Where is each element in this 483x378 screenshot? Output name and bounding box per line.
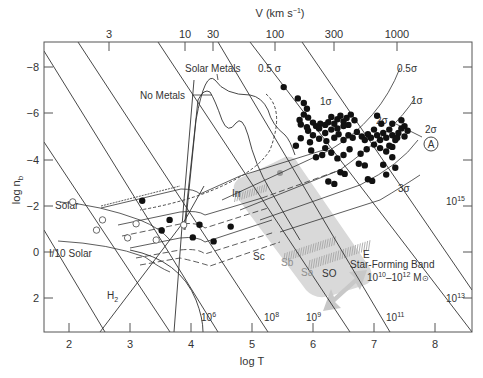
- filled-data-point: [350, 135, 356, 141]
- filled-data-point: [305, 128, 311, 134]
- filled-data-point: [228, 223, 234, 229]
- filled-data-point: [307, 139, 313, 145]
- filled-data-point: [328, 126, 334, 132]
- filled-data-point: [340, 123, 346, 129]
- label-half-sigma-left: 0.5 σ: [258, 63, 282, 74]
- filled-data-point: [334, 155, 340, 161]
- top-tick-10: 10: [179, 28, 191, 40]
- label-sfb-mass-range: 1010–1012 M⊙: [367, 271, 429, 283]
- filled-data-point: [322, 130, 328, 136]
- filled-data-point: [386, 126, 392, 132]
- filled-data-point: [392, 165, 398, 171]
- filled-data-point: [380, 162, 386, 168]
- filled-data-point: [389, 154, 395, 160]
- filled-data-point: [369, 178, 375, 184]
- filled-data-point: [334, 125, 340, 131]
- open-data-point: [181, 222, 187, 228]
- mass-label-1e11: 1011: [386, 311, 404, 323]
- filled-data-point: [316, 136, 322, 142]
- open-data-point: [99, 217, 105, 223]
- y-tick-neg4: −4: [26, 154, 39, 166]
- top-tick-100: 100: [266, 28, 284, 40]
- open-data-point: [133, 221, 139, 227]
- x-tick-5: 5: [249, 338, 255, 350]
- top-tick-1000: 1000: [385, 28, 409, 40]
- filled-data-point: [190, 234, 196, 240]
- filled-data-point: [305, 114, 311, 120]
- open-data-point: [124, 235, 130, 241]
- label-half-sigma-right: 0.5σ: [397, 63, 418, 74]
- mass-label-1e15: 1015: [446, 195, 465, 207]
- filled-data-point: [404, 128, 410, 134]
- filled-data-point: [386, 143, 392, 149]
- x-tick-2: 2: [66, 338, 72, 350]
- label-one-sigma-b: 1σ: [411, 95, 424, 106]
- y-tick-labels: −8 −6 −4 −2 0 2: [26, 61, 39, 304]
- filled-data-point: [371, 126, 377, 132]
- mass-label-1e9: 109: [306, 311, 321, 323]
- filled-data-point: [166, 217, 172, 223]
- y-tick-0: 0: [33, 246, 39, 258]
- filled-data-point: [328, 114, 334, 120]
- filled-data-point: [196, 222, 202, 228]
- label-two-sigma-b: 2σ: [425, 124, 438, 135]
- label-one-sigma-a: 1σ: [320, 96, 333, 107]
- x-tick-7: 7: [371, 338, 377, 350]
- label-h2: H2: [107, 290, 118, 303]
- filled-data-point: [337, 113, 343, 119]
- filled-data-point: [362, 137, 368, 143]
- mass-label-1e13: 1013: [446, 292, 465, 304]
- filled-data-point: [398, 117, 404, 123]
- filled-data-point: [281, 84, 287, 90]
- filled-data-point: [348, 111, 354, 117]
- data-points: [70, 84, 411, 245]
- filled-data-point: [301, 100, 307, 106]
- filled-data-point: [383, 171, 389, 177]
- y-tick-2: 2: [33, 292, 39, 304]
- filled-data-point: [401, 133, 407, 139]
- label-tenth-solar: I/10 Solar: [49, 248, 92, 259]
- y-tick-neg2: −2: [26, 200, 39, 212]
- filled-data-point: [323, 138, 329, 144]
- x-axis-title: log T: [240, 355, 265, 367]
- filled-data-point: [378, 121, 384, 127]
- filled-data-point: [298, 135, 304, 141]
- filled-data-point: [322, 145, 328, 151]
- filled-data-point: [316, 125, 322, 131]
- x-tick-labels: 2 3 4 5 6 7 8: [66, 338, 438, 350]
- filled-data-point: [356, 161, 362, 167]
- label-sa: Sa: [301, 267, 314, 278]
- label-irr: Irr: [232, 188, 242, 199]
- label-star-forming-band: Star-Forming Band: [350, 259, 434, 270]
- filled-data-point: [354, 129, 360, 135]
- filled-data-point: [342, 171, 348, 177]
- label-no-metals: No Metals: [140, 90, 185, 101]
- x-tick-8: 8: [432, 338, 438, 350]
- filled-data-point: [383, 148, 389, 154]
- top-tick-3: 3: [106, 28, 112, 40]
- filled-data-point: [371, 141, 377, 147]
- filled-data-point: [368, 135, 374, 141]
- filled-data-point: [362, 162, 368, 168]
- shaded-regions: [234, 157, 372, 311]
- filled-data-point: [325, 178, 331, 184]
- label-so: SO: [322, 268, 337, 279]
- filled-data-point: [383, 135, 389, 141]
- top-tick-300: 300: [325, 28, 343, 40]
- open-data-point: [70, 199, 76, 205]
- label-sc: Sc: [253, 251, 265, 262]
- y-tick-neg6: −6: [26, 107, 39, 119]
- open-data-point: [93, 227, 99, 233]
- filled-data-point: [346, 146, 352, 152]
- filled-data-point: [328, 150, 334, 156]
- filled-data-point: [374, 113, 380, 119]
- label-sb: Sb: [281, 257, 294, 268]
- x-tick-3: 3: [127, 338, 133, 350]
- top-tick-30: 30: [207, 28, 219, 40]
- cooling-diagram-chart: 2 3 4 5 6 7 8 3 10 30 100 300 1000 −8 −6…: [0, 0, 483, 378]
- filled-data-point: [377, 137, 383, 143]
- filled-data-point: [335, 131, 341, 137]
- label-solar-metals: Solar Metals: [185, 63, 241, 74]
- filled-data-point: [340, 137, 346, 143]
- x-tick-4: 4: [188, 338, 194, 350]
